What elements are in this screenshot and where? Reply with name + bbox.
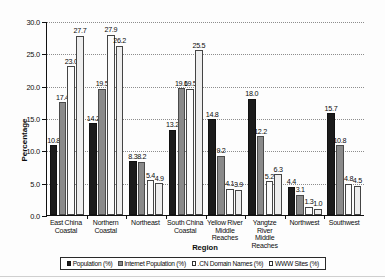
bar-slot: 23.0 <box>67 22 75 215</box>
bar <box>327 113 335 215</box>
bar-slot: 4.4 <box>288 22 296 215</box>
bar-group: 14.89.24.13.9 <box>206 22 246 215</box>
legend-swatch-icon <box>67 261 71 266</box>
bar-value-label: 1.0 <box>313 199 322 208</box>
bar-slot: 19.5 <box>186 22 194 215</box>
legend-label: .CN Domain Names (%) <box>198 260 264 267</box>
bar <box>138 162 146 215</box>
y-axis-tick-label: 25.0 <box>26 50 40 59</box>
bar-slot: 19.6 <box>178 22 186 215</box>
bar-slot: 13.2 <box>169 22 177 215</box>
bar-slot: 4.1 <box>226 22 234 215</box>
bar-group: 13.219.619.525.5 <box>166 22 206 215</box>
bar-slot: 10.8 <box>50 22 58 215</box>
bar-slot: 4.9 <box>155 22 163 215</box>
bar-value-label: 5.2 <box>265 172 274 181</box>
bar-slot: 27.7 <box>76 22 84 215</box>
bar-slot: 1.3 <box>305 22 313 215</box>
bar-slot: 1.0 <box>314 22 322 215</box>
bar <box>67 66 75 215</box>
bar <box>208 119 216 215</box>
bar-value-label: 1.3 <box>304 197 313 206</box>
bar <box>186 89 194 215</box>
chart-legend: Population (%)Internet Population (%).CN… <box>60 257 326 270</box>
bar-value-label: 3.1 <box>296 185 305 194</box>
bar-slot: 4.8 <box>345 22 353 215</box>
bar <box>336 145 344 215</box>
bar-slot: 26.2 <box>116 22 124 215</box>
bar-chart: Percentage 0.05.010.015.020.025.030.0 10… <box>0 0 385 279</box>
y-axis-tick-label: 20.0 <box>26 82 40 91</box>
bar <box>345 184 353 215</box>
bar <box>305 207 313 215</box>
x-axis-title: Region <box>46 243 364 252</box>
bar <box>116 46 124 215</box>
bar <box>217 156 225 215</box>
legend-swatch-icon <box>118 261 122 266</box>
y-axis-tick-label: 15.0 <box>26 115 40 124</box>
bar <box>288 187 296 215</box>
bar-slot: 17.4 <box>59 22 67 215</box>
bar-slot: 12.2 <box>257 22 265 215</box>
bar-group: 10.817.423.027.7 <box>47 22 87 215</box>
bar-slot: 15.7 <box>327 22 335 215</box>
plot-area: 0.05.010.015.020.025.030.0 10.817.423.02… <box>46 22 364 216</box>
bar-value-label: 5.4 <box>146 171 155 180</box>
bar-value-label: 9.2 <box>216 146 225 155</box>
bar-value-label: 3.9 <box>234 180 243 189</box>
bar-value-label: 25.5 <box>192 41 205 50</box>
bar-group: 4.43.11.31.0 <box>285 22 325 215</box>
y-axis-tick-label: 5.0 <box>30 179 40 188</box>
bar-value-label: 4.8 <box>344 174 353 183</box>
bar <box>248 99 256 215</box>
legend-item[interactable]: Population (%) <box>67 260 112 267</box>
bar <box>50 145 58 215</box>
legend-item[interactable]: Internet Population (%) <box>118 260 185 267</box>
bar <box>169 130 177 215</box>
bar <box>296 195 304 215</box>
bar-slot: 19.5 <box>98 22 106 215</box>
bar-slot: 10.8 <box>336 22 344 215</box>
bar <box>155 183 163 215</box>
bar-slot: 5.2 <box>266 22 274 215</box>
bar <box>266 181 274 215</box>
legend-item[interactable]: WWW Sites (%) <box>269 260 319 267</box>
bar-slot: 27.9 <box>107 22 115 215</box>
bar-slot: 3.9 <box>235 22 243 215</box>
bar <box>107 35 115 215</box>
bar <box>98 89 106 215</box>
bar-value-label: 4.9 <box>155 174 164 183</box>
bar <box>89 123 97 215</box>
bar-group: 14.219.527.926.2 <box>87 22 127 215</box>
legend-swatch-icon <box>192 261 196 266</box>
bottom-divider <box>0 276 385 277</box>
bar-value-label: 8.3 <box>128 152 137 161</box>
legend-item[interactable]: .CN Domain Names (%) <box>192 260 263 267</box>
bar <box>178 88 186 215</box>
bar-slot: 8.3 <box>129 22 137 215</box>
bar-group: 8.38.25.44.9 <box>126 22 166 215</box>
bar-slot: 6.3 <box>274 22 282 215</box>
bar-slot: 5.4 <box>147 22 155 215</box>
bar-slot: 8.2 <box>138 22 146 215</box>
bar-slot: 3.1 <box>296 22 304 215</box>
legend-swatch-icon <box>269 261 273 266</box>
y-axis-tick-label: 30.0 <box>26 18 40 27</box>
y-axis-tick <box>42 216 47 217</box>
y-axis-tick-label: 0.0 <box>30 212 40 221</box>
bar-value-label: 8.2 <box>137 152 146 161</box>
bar <box>314 209 322 215</box>
bar-value-label: 27.7 <box>74 26 87 35</box>
bar <box>274 174 282 215</box>
bar-group: 18.012.25.26.3 <box>245 22 285 215</box>
bar-value-label: 4.4 <box>287 177 296 186</box>
bar <box>195 50 203 215</box>
bar <box>76 36 84 215</box>
bar <box>257 136 265 215</box>
legend-label: WWW Sites (%) <box>275 260 319 267</box>
legend-label: Internet Population (%) <box>124 260 186 267</box>
bar-slot: 14.2 <box>89 22 97 215</box>
bar-slot: 14.8 <box>208 22 216 215</box>
bar-group: 15.710.84.84.5 <box>324 22 364 215</box>
bar <box>59 102 67 215</box>
